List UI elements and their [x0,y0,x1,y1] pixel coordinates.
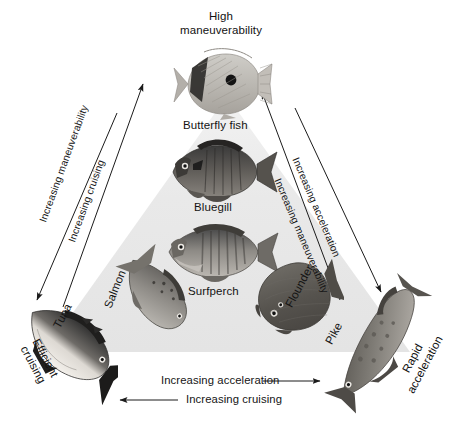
corner-title-top-line2: maneuverability [169,24,273,38]
butterflyfish-icon [168,44,274,120]
axis-label-base-acceleration: Increasing acceleration [161,374,279,387]
corner-title-top: High maneuverability [169,10,273,37]
fish-label-surfperch: Surfperch [188,285,239,299]
axis-label-base-cruising: Increasing cruising [186,393,282,406]
fish-label-butterfly-fish: Butterfly fish [183,119,248,133]
fish-label-bluegill: Bluegill [194,201,232,215]
corner-title-top-line1: High [169,10,273,24]
bluegill-icon [157,134,279,206]
salmon-icon [108,236,194,354]
figure-canvas: High maneuverability Efficient cruising … [0,0,455,436]
